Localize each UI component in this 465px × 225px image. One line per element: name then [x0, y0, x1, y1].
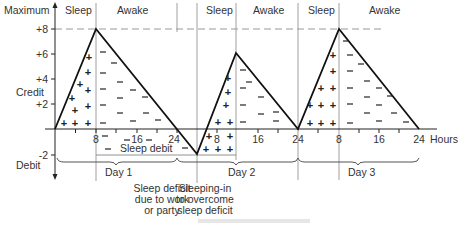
svg-text:+: + — [69, 92, 75, 104]
svg-text:+: + — [85, 66, 91, 78]
phase-label-sleep-day1: Sleep — [65, 4, 92, 16]
svg-text:+: + — [330, 82, 336, 94]
y-tick-plus8: +8 — [36, 23, 48, 35]
svg-text:+: + — [206, 130, 212, 142]
x-tick-day3-8: 8 — [336, 133, 342, 145]
day-braces: Day 1 Day 2 Day 3 — [57, 158, 419, 178]
faint-caption — [198, 219, 310, 223]
svg-text:+: + — [307, 99, 313, 111]
svg-text:+: + — [307, 117, 313, 129]
svg-text:+: + — [330, 99, 336, 111]
sleep-credit-debit-diagram: Maximum Sleep Awake Sleep Awake Sleep Aw… — [0, 0, 465, 225]
sleep-credit-curve — [55, 29, 419, 154]
svg-text:+: + — [77, 78, 83, 90]
phase-label-awake-day3: Awake — [369, 4, 400, 16]
svg-text:+: + — [203, 143, 209, 155]
svg-text:+: + — [330, 117, 336, 129]
debit-label: Debit — [16, 159, 41, 171]
phase-label-awake-day1: Awake — [117, 4, 148, 16]
svg-text:+: + — [85, 100, 91, 112]
y-axis-maximum-label: Maximum — [4, 4, 50, 16]
svg-text:+: + — [223, 99, 229, 111]
day1-label: Day 1 — [105, 166, 133, 178]
sleep-debit-label: Sleep debit — [120, 142, 173, 154]
svg-text:+: + — [330, 65, 336, 77]
svg-text:+: + — [227, 130, 233, 142]
svg-text:+: + — [72, 117, 78, 129]
x-tick-day3-24: 24 — [413, 133, 425, 145]
svg-text:+: + — [225, 72, 231, 84]
svg-text:+: + — [227, 116, 233, 128]
arrow-up-icon — [53, 2, 58, 8]
svg-text:+: + — [85, 84, 91, 96]
svg-text:+: + — [225, 86, 231, 98]
phase-dividers — [96, 3, 339, 183]
y-axis: +8 +6 +4 +2 -2 Credit Debit — [16, 2, 58, 180]
credit-label: Credit — [16, 86, 44, 98]
svg-text:+: + — [61, 117, 67, 129]
svg-text:+: + — [86, 51, 92, 63]
x-tick-day2-16: 16 — [252, 133, 264, 145]
day3-label: Day 3 — [348, 166, 376, 178]
day1-brace — [57, 158, 177, 165]
svg-text:+: + — [85, 117, 91, 129]
svg-text:sleep deficit: sleep deficit — [177, 204, 233, 216]
svg-text:+: + — [72, 104, 78, 116]
day3-brace — [298, 158, 419, 165]
svg-text:+: + — [318, 117, 324, 129]
svg-text:+: + — [215, 143, 221, 155]
y-tick-plus6: +6 — [36, 48, 48, 60]
y-tick-plus2: +2 — [36, 98, 48, 110]
x-tick-day3-16: 16 — [373, 133, 385, 145]
y-tick-plus4: +4 — [36, 73, 48, 85]
annotation-sleeping-in: Sleeping-in to overcome sleep deficit — [176, 182, 234, 216]
phase-label-awake-day2: Awake — [253, 4, 284, 16]
phase-label-sleep-day2: Sleep — [206, 4, 233, 16]
x-axis: 8 16 24 8 16 24 8 16 24 Hours — [45, 129, 458, 145]
x-tick-day2-24: 24 — [292, 133, 304, 145]
phase-label-sleep-day3: Sleep — [308, 4, 335, 16]
day2-label: Day 2 — [228, 166, 256, 178]
svg-text:+: + — [215, 116, 221, 128]
svg-text:or party: or party — [144, 204, 180, 216]
day2-brace — [177, 158, 298, 165]
arrow-down-icon — [53, 174, 58, 180]
svg-text:+: + — [318, 99, 324, 111]
x-tick-day1-8: 8 — [93, 133, 99, 145]
svg-text:+: + — [318, 82, 324, 94]
svg-text:+: + — [330, 49, 336, 61]
x-axis-hours-label: Hours — [430, 133, 458, 145]
svg-text:+: + — [227, 143, 233, 155]
